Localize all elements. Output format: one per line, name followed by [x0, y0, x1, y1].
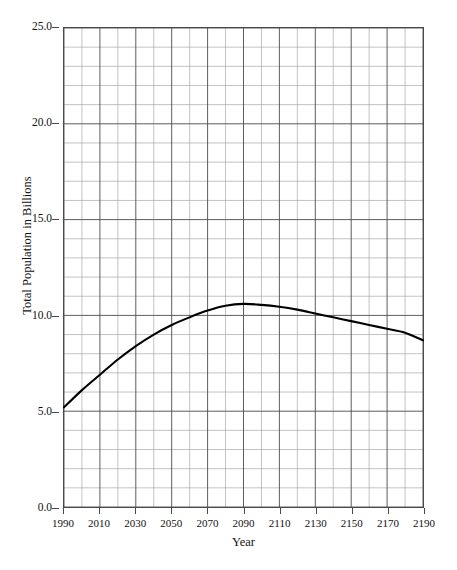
population-curve [64, 28, 423, 507]
x-axis-ticks: 1990201020302050207020902110213021502170… [63, 508, 424, 538]
y-tick-label: 25.0 [6, 21, 52, 33]
x-tick-mark [388, 508, 389, 514]
y-tick-mark [52, 123, 59, 124]
population-chart: · 25.020.015.010.05.00.0 Total Populatio… [0, 0, 457, 570]
x-tick-mark [207, 508, 208, 514]
plot-area [63, 27, 424, 508]
y-tick-label: 0.0 [6, 502, 52, 514]
x-tick-mark [316, 508, 317, 514]
x-tick-mark [244, 508, 245, 514]
x-tick-mark [280, 508, 281, 514]
x-tick-label: 2190 [394, 517, 454, 529]
x-tick-mark [135, 508, 136, 514]
y-tick-mark [52, 316, 59, 317]
x-tick-mark [171, 508, 172, 514]
y-tick-mark [52, 508, 59, 509]
x-tick-mark [424, 508, 425, 514]
x-tick-mark [99, 508, 100, 514]
clipped-chart-title: · [0, 0, 457, 3]
y-tick-mark [52, 412, 59, 413]
x-tick-mark [352, 508, 353, 514]
y-tick-mark [52, 219, 59, 220]
x-tick-mark [63, 508, 64, 514]
y-tick-label: 5.0 [6, 406, 52, 418]
y-axis-title: Total Population in Billions [20, 116, 35, 376]
x-axis-title: Year [63, 535, 424, 550]
y-tick-mark [52, 27, 59, 28]
